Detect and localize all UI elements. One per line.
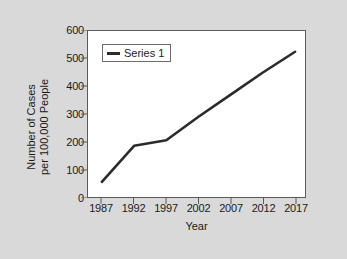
x-tick-label: 1997 [154,202,178,214]
x-tick-label: 1987 [89,202,113,214]
legend-item-series-1: Series 1 [124,47,164,59]
x-axis-title: Year [87,220,306,232]
x-tick-label: 1992 [122,202,146,214]
y-axis-title: Number of Cases per 100,000 People [25,43,51,211]
series-line-1 [102,52,295,182]
y-axis-tick-labels: 0100200300400500600 [48,30,84,198]
x-tick-label: 2007 [219,202,243,214]
x-tick-label: 2002 [187,202,211,214]
chart-legend: Series 1 [102,44,171,62]
y-axis-title-line-2: per 100,000 People [38,43,51,211]
y-axis-title-line-1: Number of Cases [25,43,38,211]
x-tick-label: 2012 [252,202,276,214]
x-tick-label: 2017 [284,202,308,214]
chart-figure: 0100200300400500600 Number of Cases per … [14,11,333,248]
legend-line-swatch [107,52,120,55]
line-chart: 0100200300400500600 Number of Cases per … [14,11,333,248]
x-axis-tick-labels: 1987199219972002200720122017 [87,202,306,218]
